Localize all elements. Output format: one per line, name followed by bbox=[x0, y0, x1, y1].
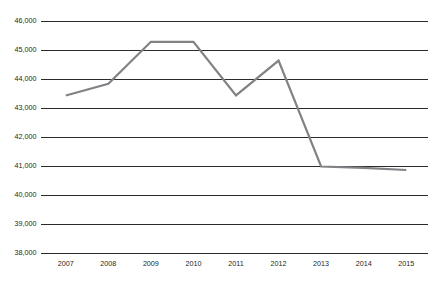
y-axis-tick-labels: 46,00045,00044,00043,00042,00041,00040,0… bbox=[15, 16, 37, 257]
x-axis-tick-labels: 200720082009201020112012201320142015 bbox=[58, 259, 414, 268]
x-axis-tick-label: 2014 bbox=[356, 259, 372, 268]
x-axis-tick-label: 2009 bbox=[143, 259, 159, 268]
y-axis-tick-label: 46,000 bbox=[15, 16, 37, 25]
line-chart: 46,00045,00044,00043,00042,00041,00040,0… bbox=[0, 0, 440, 294]
y-axis-tick-label: 43,000 bbox=[15, 103, 37, 112]
y-axis-tick-label: 44,000 bbox=[15, 74, 37, 83]
x-axis-tick-label: 2007 bbox=[58, 259, 74, 268]
y-axis-tick-label: 40,000 bbox=[15, 190, 37, 199]
x-axis-tick-label: 2015 bbox=[398, 259, 414, 268]
x-axis-tick-label: 2011 bbox=[228, 259, 243, 268]
y-axis-tick-label: 39,000 bbox=[15, 219, 37, 228]
y-axis-tick-label: 42,000 bbox=[15, 132, 37, 141]
y-axis-tick-label: 45,000 bbox=[15, 45, 37, 54]
x-axis-tick-label: 2012 bbox=[271, 259, 287, 268]
x-axis-tick-label: 2008 bbox=[100, 259, 116, 268]
chart-canvas: 46,00045,00044,00043,00042,00041,00040,0… bbox=[0, 0, 440, 294]
chart-background bbox=[0, 0, 440, 294]
y-axis-tick-label: 41,000 bbox=[15, 161, 37, 170]
x-axis-tick-label: 2013 bbox=[313, 259, 329, 268]
x-axis-tick-label: 2010 bbox=[185, 259, 201, 268]
y-axis-tick-label: 38,000 bbox=[15, 248, 37, 257]
